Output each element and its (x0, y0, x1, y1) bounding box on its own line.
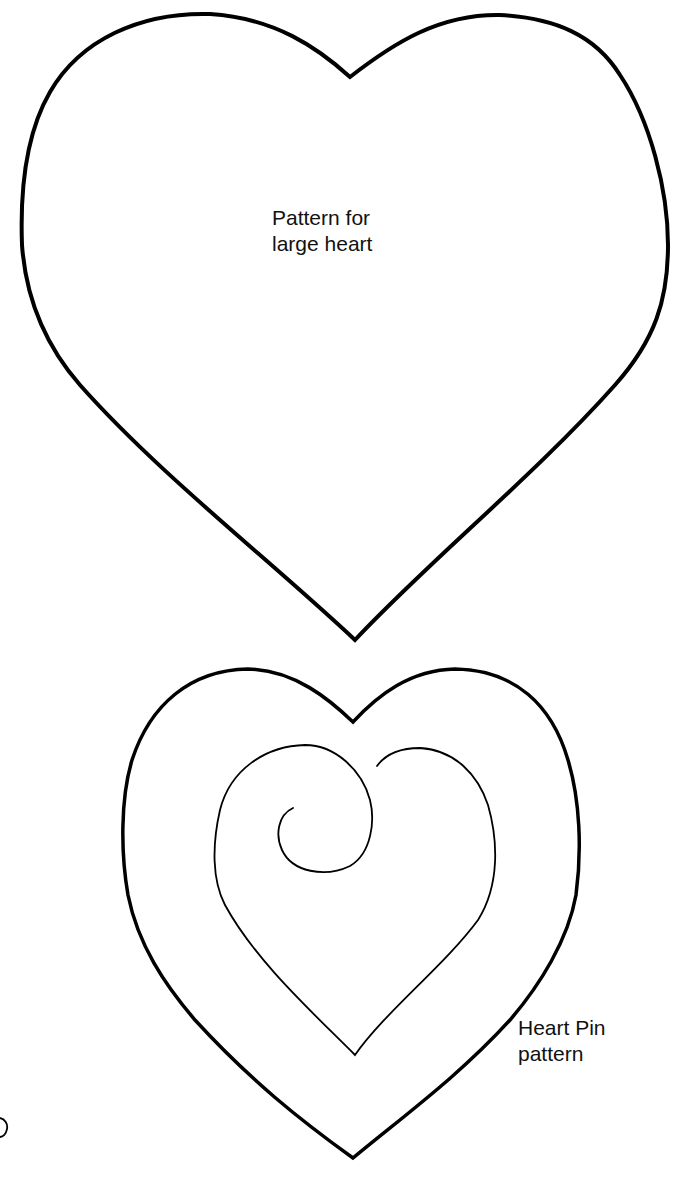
large-heart-label: Pattern for large heart (272, 205, 372, 257)
large-heart-label-line2: large heart (272, 231, 372, 257)
heart-patterns-drawing (0, 0, 678, 1186)
large-heart-label-line1: Pattern for (272, 205, 372, 231)
heart-pin-label-line1: Heart Pin (518, 1015, 606, 1041)
pattern-page: Pattern for large heart Heart Pin patter… (0, 0, 678, 1186)
edge-mark (0, 1118, 7, 1137)
heart-pin-spiral (215, 745, 496, 1055)
heart-pin-label-line2: pattern (518, 1041, 606, 1067)
heart-pin-label: Heart Pin pattern (518, 1015, 606, 1067)
large-heart-outline (22, 14, 668, 640)
heart-pin-outline (123, 669, 579, 1158)
